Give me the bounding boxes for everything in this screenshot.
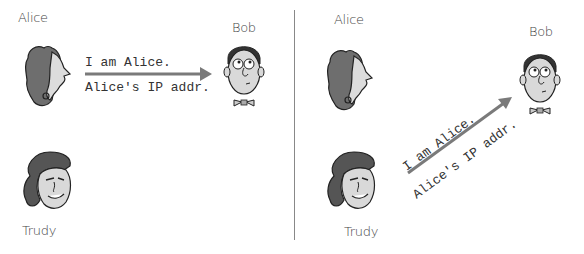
alice-label: Alice (18, 10, 48, 25)
bob-label: Bob (529, 24, 553, 39)
message-line2: Alice's IP addr. (85, 80, 210, 95)
bob-icon (218, 38, 268, 110)
trudy-icon (20, 148, 78, 216)
alice-label: Alice (334, 12, 364, 27)
trudy-label: Trudy (344, 224, 378, 239)
trudy-label: Trudy (22, 223, 56, 238)
alice-icon (22, 40, 74, 112)
alice-icon (324, 44, 376, 116)
panel-divider (294, 10, 295, 240)
bob-icon (514, 46, 564, 118)
bob-label: Bob (232, 20, 256, 35)
trudy-icon (324, 148, 382, 216)
message-line1: I am Alice. (85, 55, 171, 70)
